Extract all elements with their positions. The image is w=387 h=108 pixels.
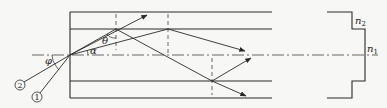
fiber-ray-diagram: φ θ α 2 1 n2 n1	[0, 0, 387, 108]
ray-alpha	[70, 29, 168, 55]
phi-label: φ	[45, 55, 52, 66]
phi-arc-2	[56, 66, 59, 70]
ray-refract-into-bottom-cladding	[212, 81, 246, 96]
alpha-label: α	[90, 45, 97, 56]
svg-text:2: 2	[18, 81, 23, 90]
alpha-arc	[87, 50, 88, 55]
n1-label: n1	[367, 43, 378, 56]
svg-text:1: 1	[35, 93, 40, 102]
escaping-ray	[70, 15, 147, 55]
ray-alpha-reflected	[168, 29, 245, 51]
n2-label: n2	[355, 15, 366, 28]
ray-1-marker: 1	[32, 92, 42, 102]
ray-2-marker: 2	[15, 80, 25, 90]
ray-reflected-up	[212, 58, 251, 81]
theta-label: θ	[102, 35, 108, 46]
